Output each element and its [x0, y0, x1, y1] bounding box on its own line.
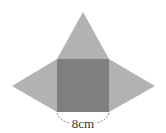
top-triangle-face [57, 12, 109, 59]
pyramid-net-diagram: 8cm [0, 0, 166, 133]
side-length-label: 8cm [72, 116, 94, 131]
right-triangle-face [109, 59, 155, 112]
left-triangle-face [12, 59, 57, 112]
square-base [57, 59, 109, 112]
dimension-brace-right [96, 113, 109, 123]
dimension-brace [57, 113, 70, 123]
